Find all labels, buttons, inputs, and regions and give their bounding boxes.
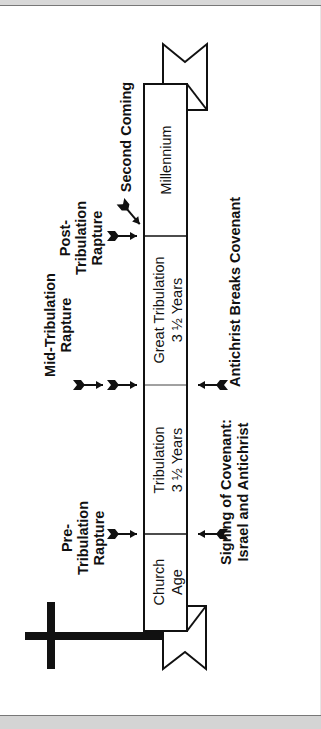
segment-label-line1: Great Tribulation	[151, 256, 167, 363]
label-line1: Mid-Tribulation	[42, 273, 58, 377]
segment-label-line1: Church	[151, 559, 167, 606]
label-line2: Rapture	[58, 298, 74, 353]
label-line1: Antichrist Breaks Covenant	[227, 197, 243, 387]
label-line2: Israel and Antichrist	[235, 422, 251, 561]
arrow-icon	[107, 231, 137, 241]
label-line1: Post-	[57, 220, 73, 256]
arrow-icon	[117, 198, 144, 227]
segment-millennium: Millennium	[158, 125, 174, 194]
segment-label-line2: Age	[169, 569, 185, 595]
arrow-icon	[107, 529, 137, 539]
antichrist-breaks-covenant: Antichrist Breaks Covenant	[198, 197, 243, 390]
end-times-timeline-diagram: Millennium Great Tribulation 3 ½ Years T…	[0, 0, 321, 729]
signing-of-covenant: Signing of Covenant: Israel and Antichri…	[198, 419, 251, 565]
segment-label-line1: Tribulation	[151, 426, 167, 493]
label-line2: Tribulation	[73, 201, 89, 275]
segment-label-line2: 3 ½ Years	[169, 278, 185, 343]
pre-tribulation-rapture: Pre- Tribulation Rapture	[59, 501, 137, 575]
arrow-icon	[107, 380, 137, 390]
mid-tribulation-rapture: Mid-Tribulation Rapture	[42, 273, 137, 390]
label-line3: Rapture	[91, 511, 107, 566]
post-tribulation-rapture: Post- Tribulation Rapture	[57, 201, 137, 275]
second-coming-label: Second Coming	[118, 82, 134, 192]
label-line3: Rapture	[89, 211, 105, 266]
label-line1: Pre-	[59, 524, 75, 552]
segment-label: Millennium	[158, 125, 174, 194]
arrow-icon	[73, 380, 103, 390]
segment-label-line2: 3 ½ Years	[169, 428, 185, 493]
arrow-icon	[198, 380, 228, 390]
label-line2: Tribulation	[75, 501, 91, 575]
second-coming: Second Coming	[117, 82, 144, 228]
cross-icon	[25, 602, 163, 669]
label-line1: Signing of Covenant:	[218, 419, 234, 565]
